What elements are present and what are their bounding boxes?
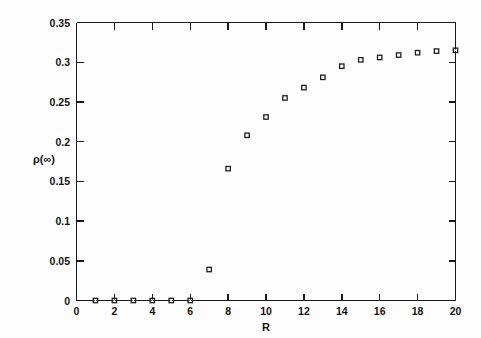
x-tick-label: 12: [298, 305, 310, 317]
data-series-markers: [93, 48, 457, 303]
data-point: [434, 49, 438, 53]
scatter-plot: 0 0.05 0.1 0.15 0.2 0.25 0.3 0.35 0 2 4 …: [0, 0, 481, 338]
data-point: [302, 85, 306, 89]
data-point: [207, 267, 211, 271]
x-tick-label: 0: [74, 305, 80, 317]
data-point: [283, 96, 287, 100]
data-point: [396, 53, 400, 57]
data-point: [321, 75, 325, 79]
x-tick-label: 14: [336, 305, 348, 317]
x-tick-labels: 0 2 4 6 8 10 12 14 16 18 20: [74, 305, 462, 317]
x-tick-label: 20: [450, 305, 462, 317]
x-axis-ticks: [77, 23, 456, 301]
plot-axes: [77, 23, 456, 301]
x-tick-label: 10: [260, 305, 272, 317]
data-point: [226, 166, 230, 170]
y-tick-label: 0.2: [55, 136, 70, 148]
x-tick-label: 18: [412, 305, 424, 317]
axis-left-bottom: [77, 23, 456, 301]
chart-figure: 0 0.05 0.1 0.15 0.2 0.25 0.3 0.35 0 2 4 …: [0, 0, 481, 338]
data-point: [340, 64, 344, 68]
y-tick-label: 0.3: [55, 56, 70, 68]
data-point: [245, 133, 249, 137]
x-tick-label: 2: [111, 305, 117, 317]
y-tick-label: 0: [64, 295, 70, 307]
y-tick-label: 0.35: [50, 17, 71, 29]
x-tick-label: 16: [374, 305, 386, 317]
x-tick-label: 8: [225, 305, 231, 317]
y-tick-label: 0.05: [50, 255, 71, 267]
data-point: [415, 50, 419, 54]
x-tick-label: 6: [187, 305, 193, 317]
y-tick-label: 0.1: [55, 215, 70, 227]
data-point: [359, 58, 363, 62]
data-point: [378, 55, 382, 59]
y-axis-ticks: [77, 23, 456, 301]
x-tick-label: 4: [149, 305, 155, 317]
data-point: [264, 115, 268, 119]
y-tick-label: 0.25: [50, 96, 71, 108]
y-axis-title: ρ(∞): [33, 153, 55, 165]
y-tick-label: 0.15: [50, 175, 71, 187]
x-axis-title: R: [262, 321, 270, 333]
